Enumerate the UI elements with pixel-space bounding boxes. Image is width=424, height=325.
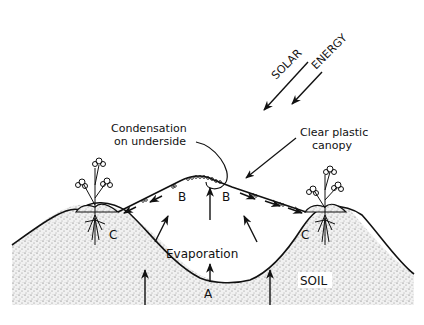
plastic-canopy — [118, 176, 306, 213]
point-a-label: A — [204, 287, 213, 301]
canopy-pointer — [246, 138, 296, 178]
solar-still-diagram: SOLAR ENERGY Condensation on underside C… — [0, 0, 424, 325]
point-c-left-label: C — [109, 228, 117, 242]
canopy-label-line2: canopy — [312, 139, 352, 152]
evaporation-label: Evaporation — [166, 247, 238, 261]
condensation-pointer — [196, 142, 227, 189]
canopy-label-line1: Clear plastic — [300, 126, 368, 139]
soil-label: SOIL — [300, 274, 328, 288]
point-b-left-label: B — [178, 190, 186, 204]
condensation-droplets — [142, 176, 285, 207]
energy-label: ENERGY — [309, 31, 350, 72]
solar-label: SOLAR — [269, 46, 305, 82]
point-b-right-label: B — [222, 190, 230, 204]
condensation-label-line1: Condensation — [111, 122, 187, 135]
point-c-right-label: C — [301, 228, 309, 242]
condensation-label-line2: on underside — [114, 135, 186, 148]
flower-icon — [76, 158, 113, 189]
